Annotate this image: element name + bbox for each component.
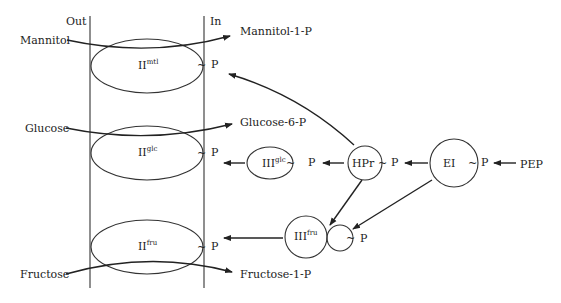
phospho-label: P	[308, 156, 316, 169]
tilde-icon: ~	[197, 241, 206, 254]
svg-text:IIIfru: IIIfru	[294, 229, 318, 243]
product-fructose-1-p: Fructose-1-P	[240, 268, 312, 281]
tilde-icon: ~	[468, 157, 477, 170]
svg-text:IImtl: IImtl	[138, 58, 159, 72]
fructose-transport-arrow	[66, 261, 232, 274]
svg-text:HPr: HPr	[352, 157, 375, 170]
phospho-label: P	[211, 146, 219, 159]
product-mannitol-1-p: Mannitol-1-P	[240, 25, 313, 38]
pep-label: PEP	[520, 158, 543, 171]
tilde-icon: ~	[346, 232, 355, 245]
transporter-ii-fru: IIfru ~ P	[91, 220, 219, 274]
phospho-label: P	[391, 156, 399, 169]
substrate-mannitol: Mannitol	[20, 34, 71, 47]
hpr-to-iii-fru-arrow	[330, 180, 362, 225]
phospho-label: P	[211, 58, 219, 71]
svg-text:IIIglc: IIIglc	[262, 156, 286, 170]
tilde-icon: ~	[197, 147, 206, 160]
hpr-to-ii-mtl-arrow	[229, 74, 354, 145]
tilde-icon: ~	[286, 157, 295, 170]
product-glucose-6-p: Glucose-6-P	[240, 116, 307, 129]
iii-glc: IIIglc ~ P	[247, 147, 316, 179]
substrate-fructose: Fructose	[20, 268, 69, 281]
svg-text:IIfru: IIfru	[138, 239, 158, 253]
pts-diagram: Out In IImtl ~ P Mannitol Mannitol-1-P I…	[0, 0, 561, 303]
ii-fru-ellipse	[91, 220, 203, 274]
ei: EI ~ P	[430, 139, 489, 187]
phospho-label: P	[211, 240, 219, 253]
ei-to-iii-fru-arrow	[353, 180, 432, 229]
phospho-label: P	[360, 232, 368, 245]
tilde-icon: ~	[378, 157, 387, 170]
phospho-label: P	[481, 156, 489, 169]
in-label: In	[210, 15, 221, 28]
out-label: Out	[66, 15, 87, 28]
tilde-icon: ~	[197, 59, 206, 72]
hpr: HPr ~ P	[348, 146, 399, 180]
mannitol-transport-arrow	[67, 36, 230, 48]
svg-text:EI: EI	[443, 157, 455, 170]
svg-text:IIglc: IIglc	[138, 145, 157, 159]
iii-fru: IIIfru ~ P	[285, 216, 368, 258]
substrate-glucose: Glucose	[25, 122, 69, 135]
